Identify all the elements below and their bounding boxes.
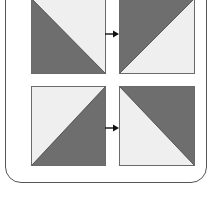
transform-arrow-row2 <box>105 124 119 132</box>
arrow-right-icon <box>105 124 119 132</box>
half-square-triangle-icon <box>32 87 105 165</box>
tile-row2-before <box>31 86 106 166</box>
half-square-triangle-icon <box>32 0 105 73</box>
transform-arrow-row1 <box>105 30 119 38</box>
tile-row1-after <box>119 0 195 74</box>
half-square-triangle-icon <box>120 0 194 73</box>
half-square-triangle-icon <box>120 87 194 165</box>
tile-row2-after <box>119 86 195 166</box>
arrow-right-icon <box>105 30 119 38</box>
tile-row1-before <box>31 0 106 74</box>
